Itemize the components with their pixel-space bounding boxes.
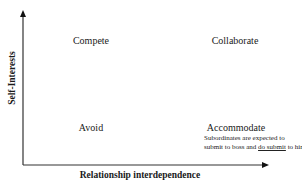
quadrant-avoid: Avoid bbox=[79, 122, 103, 133]
quadrant-compete: Compete bbox=[73, 35, 109, 46]
quadrant-accommodate: Accommodate bbox=[207, 122, 265, 133]
y-axis-label: Self-Interests bbox=[7, 51, 17, 105]
y-axis-arrowhead-icon bbox=[20, 10, 26, 17]
accommodate-note: Subordinates are expected to submit to b… bbox=[204, 134, 302, 152]
x-axis-arrowhead-icon bbox=[262, 162, 269, 168]
quadrant-collaborate: Collaborate bbox=[212, 35, 259, 46]
axes bbox=[0, 0, 302, 189]
note-emphasis: do submit bbox=[258, 143, 286, 151]
note-line-2-pre: submit to boss and bbox=[204, 143, 258, 151]
x-axis-label: Relationship interdependence bbox=[80, 170, 201, 180]
note-line-1: Subordinates are expected to bbox=[204, 134, 302, 143]
note-line-2: submit to boss and do submit to him bbox=[204, 143, 302, 152]
note-line-2-post: to him bbox=[286, 143, 302, 151]
